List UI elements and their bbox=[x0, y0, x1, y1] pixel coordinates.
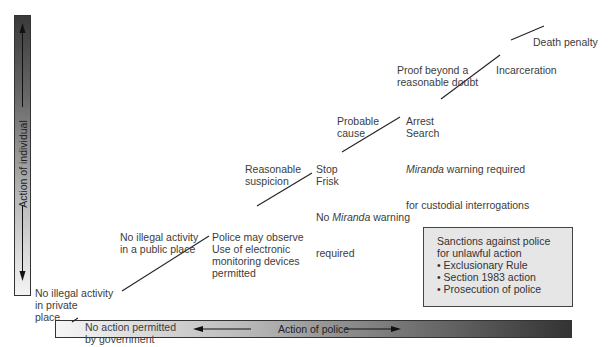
individual-level-proof-beyond-doubt: Proof beyond areasonable doubt bbox=[397, 40, 478, 100]
sanction-item: • Exclusionary Rule bbox=[437, 259, 572, 271]
sanctions-title: Sanctions against police bbox=[437, 235, 572, 247]
police-level-arrest-search: ArrestSearch Miranda warning required fo… bbox=[406, 91, 529, 223]
police-level-death-penalty: Death penalty bbox=[533, 12, 598, 60]
sanction-item: • Section 1983 action bbox=[437, 271, 572, 283]
sanction-item: • Prosecution of police bbox=[437, 283, 572, 295]
individual-level-public: No illegal activityin a public place bbox=[120, 207, 198, 267]
police-level-stop-frisk: StopFrisk No Miranda warning required bbox=[316, 139, 410, 271]
police-level-none: No action permittedby government bbox=[85, 297, 176, 347]
sanctions-subtitle: for unlawful action bbox=[437, 247, 572, 259]
individual-level-reasonable-suspicion: Reasonablesuspicion bbox=[245, 139, 301, 199]
individual-level-probable-cause: Probablecause bbox=[337, 91, 379, 151]
sanctions-box: Sanctions against police for unlawful ac… bbox=[423, 227, 573, 307]
police-level-observe: Police may observeUse of electronicmonit… bbox=[212, 207, 304, 291]
